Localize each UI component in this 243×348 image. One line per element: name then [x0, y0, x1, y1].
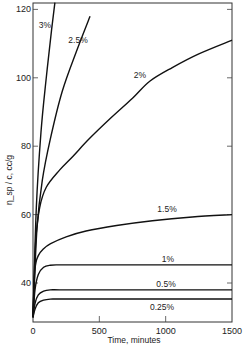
curve-0p25pct [33, 299, 232, 317]
y-axis-title: η_sp / c, cc/g [4, 155, 14, 205]
plot-frame [33, 3, 232, 322]
curve-label: 0.5% [156, 279, 176, 289]
curve-label: 3% [39, 20, 52, 30]
x-tick-label: 1500 [222, 326, 242, 336]
y-tick-label: 120 [16, 4, 31, 14]
curve-label: 1% [162, 254, 175, 264]
curve-2pct [33, 40, 232, 317]
x-tick-label: 500 [92, 326, 107, 336]
curve-labels: 3%2.5%2%1.5%1%0.5%0.25% [39, 20, 177, 312]
y-tick-label: 100 [16, 73, 31, 83]
curve-label: 0.25% [150, 302, 175, 312]
viscosity-time-chart: 050010001500406080100120 3%2.5%2%1.5%1%0… [0, 0, 243, 348]
curve-3pct [33, 3, 55, 318]
y-tick-label: 60 [21, 210, 31, 220]
curve-label: 2% [134, 70, 147, 80]
x-axis-title: Time, minutes [107, 335, 160, 345]
data-curves [33, 3, 232, 318]
curve-1p5pct [33, 215, 232, 318]
curve-0p5pct [33, 290, 232, 317]
tick-labels: 050010001500406080100120 [16, 4, 242, 336]
x-tick-label: 0 [30, 326, 35, 336]
y-tick-label: 40 [21, 278, 31, 288]
curve-1pct [33, 265, 232, 317]
curve-label: 2.5% [68, 35, 88, 45]
y-tick-label: 80 [21, 141, 31, 151]
curve-2p5pct [33, 16, 90, 317]
curve-label: 1.5% [157, 204, 177, 214]
